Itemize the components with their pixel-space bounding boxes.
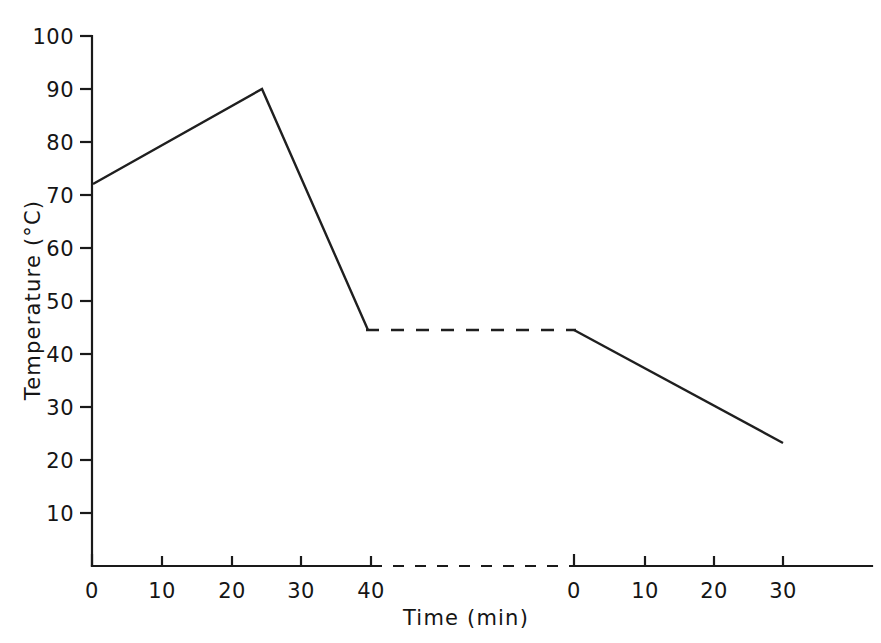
y-tick-label: 50 — [46, 290, 74, 314]
x-axis-title: Time (min) — [402, 606, 529, 630]
x-axis-tick-labels-panel-2: 0 10 20 30 — [567, 579, 797, 603]
y-tick-label: 90 — [46, 78, 74, 102]
x-tick-label: 30 — [287, 579, 315, 603]
y-tick-label-zero: 0 — [85, 579, 99, 603]
series-cooling-ramp — [574, 330, 783, 443]
x-axis-ticks-panel-2 — [574, 554, 783, 566]
y-tick-label: 40 — [46, 343, 74, 367]
y-tick-label: 10 — [46, 502, 74, 526]
x-tick-label: 40 — [357, 579, 385, 603]
y-axis-ticks — [80, 36, 92, 513]
y-axis-title: Temperature (°C) — [21, 200, 45, 401]
y-tick-label: 20 — [46, 449, 74, 473]
y-tick-label: 100 — [32, 25, 74, 49]
y-tick-label: 30 — [46, 396, 74, 420]
y-tick-label: 60 — [46, 237, 74, 261]
chart-container: 100 90 80 70 60 50 40 30 20 10 0 10 20 3… — [0, 0, 881, 643]
x-tick-label: 10 — [148, 579, 176, 603]
series-temperature-profile — [93, 89, 368, 330]
y-tick-label: 80 — [46, 131, 74, 155]
x-tick-label: 0 — [567, 579, 581, 603]
x-tick-label: 30 — [769, 579, 797, 603]
x-tick-label: 20 — [218, 579, 246, 603]
temperature-time-line-chart: 100 90 80 70 60 50 40 30 20 10 0 10 20 3… — [0, 0, 881, 643]
y-tick-label: 70 — [46, 184, 74, 208]
x-tick-label: 20 — [700, 579, 728, 603]
x-axis-ticks-panel-1 — [92, 554, 371, 566]
x-axis-tick-labels-panel-1: 10 20 30 40 — [148, 579, 385, 603]
x-tick-label: 10 — [631, 579, 659, 603]
